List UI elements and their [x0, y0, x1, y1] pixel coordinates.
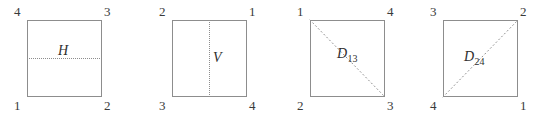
axis-label-subscript: 13: [347, 53, 357, 64]
corner-label-top-left: 3: [430, 5, 437, 18]
corner-label-top-right: 4: [387, 5, 394, 18]
horizontal-axis-dotted-line: [27, 58, 102, 59]
vertical-axis-dotted-line: [209, 20, 210, 97]
axis-label-v: V: [213, 51, 222, 65]
corner-label-top-right: 1: [249, 5, 256, 18]
corner-label-bottom-right: 1: [520, 99, 527, 112]
corner-label-top-left: 1: [297, 5, 304, 18]
symmetry-figure: H 4 3 1 2 V 2 1 3 4 D13 1 4 2 3 D24 3 2 …: [0, 0, 545, 117]
corner-label-top-right: 3: [104, 5, 111, 18]
axis-label-d13: D13: [337, 47, 357, 66]
axis-label-d24: D24: [464, 50, 484, 69]
corner-label-top-left: 2: [159, 5, 166, 18]
axis-label-h: H: [58, 44, 68, 58]
corner-label-top-left: 4: [14, 5, 21, 18]
corner-label-bottom-right: 4: [249, 99, 256, 112]
corner-label-bottom-right: 3: [387, 99, 394, 112]
corner-label-top-right: 2: [520, 5, 527, 18]
corner-label-bottom-left: 4: [430, 99, 437, 112]
corner-label-bottom-left: 2: [297, 99, 304, 112]
panel-diagonal-mirror-d24: D24 3 2 4 1: [416, 0, 545, 117]
panel-vertical-mirror: V 2 1 3 4: [145, 0, 275, 117]
axis-label-subscript: 24: [474, 56, 484, 67]
panel-diagonal-mirror-d13: D13 1 4 2 3: [283, 0, 413, 117]
panel-horizontal-mirror: H 4 3 1 2: [0, 0, 130, 117]
corner-label-bottom-left: 1: [14, 99, 21, 112]
corner-label-bottom-right: 2: [104, 99, 111, 112]
corner-label-bottom-left: 3: [159, 99, 166, 112]
